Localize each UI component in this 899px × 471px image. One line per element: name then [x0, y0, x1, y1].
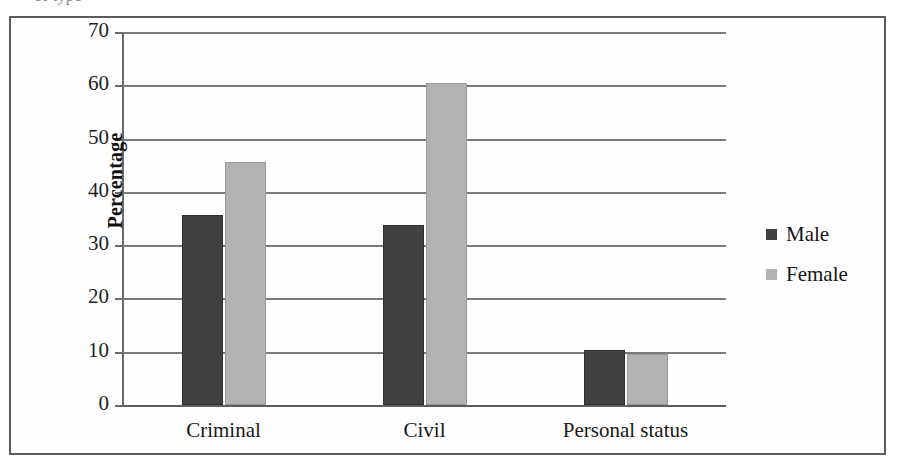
- gridline: [123, 405, 726, 407]
- legend-label-male: Male: [786, 224, 829, 245]
- figure-frame: Percentage 010203040506070 CriminalCivil…: [9, 16, 886, 455]
- gridline: [123, 85, 726, 87]
- bar-male-personal-status: [584, 350, 625, 405]
- gridline: [123, 139, 726, 141]
- legend-swatch-female-icon: [766, 269, 777, 280]
- gridline: [123, 192, 726, 194]
- cut-off-caption-text: of type: [34, 0, 82, 6]
- y-axis-tick: [115, 298, 123, 300]
- y-axis-tick: [115, 405, 123, 407]
- x-axis-label-criminal: Criminal: [114, 418, 334, 443]
- y-axis-tick-label: 20: [57, 284, 109, 309]
- bar-male-civil: [383, 225, 424, 405]
- legend-swatch-male-icon: [766, 229, 777, 240]
- x-axis-label-personal-status: Personal status: [516, 418, 736, 443]
- cut-off-caption: of type: [0, 0, 899, 13]
- y-axis-tick-label: 10: [57, 338, 109, 363]
- bar-female-criminal: [225, 162, 266, 405]
- y-axis-tick-label: 0: [57, 391, 109, 416]
- y-axis-tick: [115, 32, 123, 34]
- y-axis-tick-label: 30: [57, 231, 109, 256]
- y-axis-tick-label: 50: [57, 125, 109, 150]
- bar-female-civil: [426, 83, 467, 405]
- legend-item-female: Female: [766, 254, 881, 294]
- legend-item-male: Male: [766, 214, 881, 254]
- bar-male-criminal: [182, 215, 223, 405]
- legend: MaleFemale: [766, 214, 881, 294]
- x-axis-label-civil: Civil: [315, 418, 535, 443]
- y-axis-tick: [115, 85, 123, 87]
- bar-female-personal-status: [627, 354, 668, 405]
- y-axis-tick-label: 60: [57, 71, 109, 96]
- bar-chart: Percentage 010203040506070 CriminalCivil…: [11, 18, 888, 457]
- y-axis-tick-label: 40: [57, 178, 109, 203]
- y-axis-tick-label: 70: [57, 18, 109, 43]
- gridline: [123, 32, 726, 34]
- plot-area: Percentage: [123, 32, 726, 405]
- y-axis-tick: [115, 352, 123, 354]
- legend-label-female: Female: [786, 264, 848, 285]
